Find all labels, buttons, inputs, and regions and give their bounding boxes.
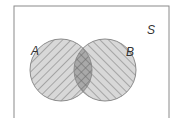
set-b-label: B — [126, 45, 134, 59]
universe-label: S — [147, 23, 155, 37]
set-a-label: A — [30, 44, 39, 58]
venn-diagram: A B S — [0, 0, 175, 118]
